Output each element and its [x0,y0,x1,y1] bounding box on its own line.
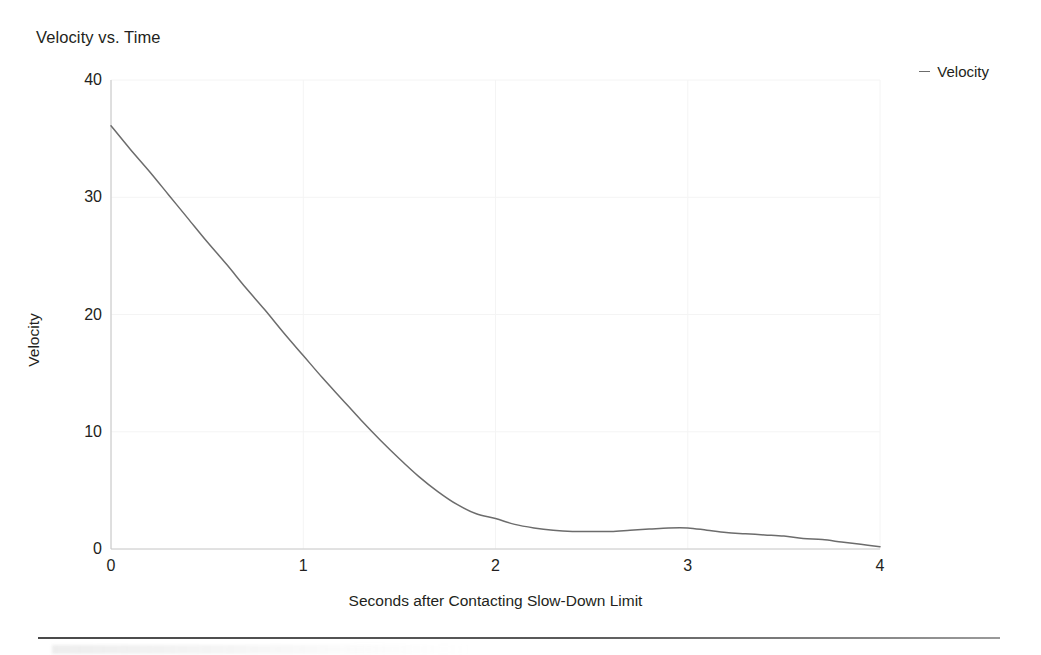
chart-legend: Velocity [919,63,989,80]
legend-marker-dash-icon [919,71,930,72]
page-bottom-artifact [52,645,472,654]
y-axis-title-text: Velocity [25,313,43,366]
chart-figure: Velocity vs. Time Velocity 010203040 012… [0,0,1041,655]
x-axis-tick-labels: 01234 [111,557,880,585]
y-tick-label-20: 20 [62,306,102,324]
chart-title: Velocity vs. Time [36,28,161,47]
x-axis-title: Seconds after Contacting Slow-Down Limit [111,592,880,610]
x-tick-label-0: 0 [107,557,116,575]
plot-svg [111,80,880,549]
legend-label-velocity: Velocity [937,63,989,80]
plot-area [111,80,880,549]
page-divider-rule [38,637,1000,639]
gridlines [111,80,880,549]
x-tick-label-3: 3 [683,557,692,575]
y-axis-title: Velocity [23,260,45,420]
x-tick-label-2: 2 [491,557,500,575]
y-tick-label-0: 0 [62,540,102,558]
y-tick-label-40: 40 [62,71,102,89]
x-tick-label-4: 4 [876,557,885,575]
y-tick-label-10: 10 [62,423,102,441]
x-tick-label-1: 1 [299,557,308,575]
y-tick-label-30: 30 [62,188,102,206]
y-axis-tick-labels: 010203040 [58,80,102,549]
